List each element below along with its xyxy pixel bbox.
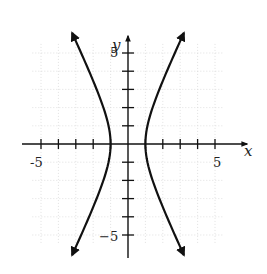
y-tick-label-neg5: −5 — [99, 229, 118, 244]
x-tick-label-neg5: -5 — [30, 155, 43, 170]
x-tick-label-5: 5 — [213, 155, 221, 170]
axes — [22, 36, 247, 258]
hyperbola-chart: y x 5 −5 -5 5 — [0, 0, 267, 274]
x-axis-label: x — [244, 142, 253, 160]
y-tick-label-5: 5 — [110, 45, 118, 60]
